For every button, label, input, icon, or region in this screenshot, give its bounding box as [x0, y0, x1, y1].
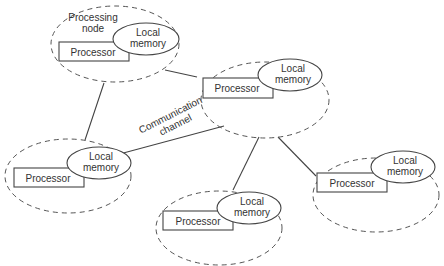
- communication-channel-label: Communication channel: [137, 94, 209, 145]
- processing-node-2: Processor Local memory: [201, 59, 329, 138]
- svg-text:memory: memory: [234, 207, 270, 218]
- processing-node-4: Processor Local memory: [156, 191, 282, 265]
- svg-text:memory: memory: [83, 162, 119, 173]
- processing-node-label-2: node: [82, 23, 105, 34]
- processing-node-1: Processing node Processor Local memory: [51, 6, 179, 82]
- svg-text:memory: memory: [130, 38, 166, 49]
- edge-n2-n4: [233, 137, 259, 190]
- svg-text:Processor: Processor: [70, 47, 116, 58]
- svg-text:Processor: Processor: [175, 216, 221, 227]
- edge-n1-n2: [165, 70, 197, 77]
- svg-text:Local: Local: [240, 196, 264, 207]
- edge-n1-n3: [85, 83, 104, 140]
- svg-text:Local: Local: [136, 27, 160, 38]
- edge-n2-n5: [278, 137, 316, 176]
- svg-text:Processor: Processor: [25, 173, 71, 184]
- svg-text:Local: Local: [89, 151, 113, 162]
- processing-node-3: Processor Local memory: [5, 139, 131, 213]
- svg-text:Local: Local: [393, 155, 417, 166]
- processing-node-5: Processor Local memory: [313, 151, 439, 232]
- svg-text:memory: memory: [275, 74, 311, 85]
- processing-node-label: Processing: [68, 12, 117, 23]
- svg-text:Processor: Processor: [329, 178, 375, 189]
- svg-text:Local: Local: [281, 63, 305, 74]
- distributed-memory-diagram: Communication channel Processing node Pr…: [0, 0, 444, 266]
- svg-text:Processor: Processor: [214, 83, 260, 94]
- svg-text:memory: memory: [387, 166, 423, 177]
